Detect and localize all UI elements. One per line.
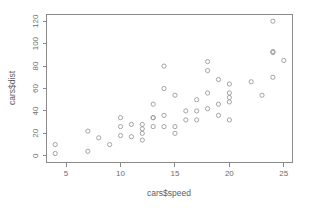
data-point	[227, 91, 231, 95]
data-point	[195, 118, 199, 122]
data-point	[173, 131, 177, 135]
x-tick-label: 10	[116, 169, 125, 178]
data-point	[162, 125, 166, 129]
x-axis-ticks: 510152025	[64, 163, 289, 178]
data-point	[260, 93, 264, 97]
y-tick-label: 40	[31, 106, 40, 115]
x-tick-label: 5	[64, 169, 69, 178]
y-tick-label: 0	[31, 153, 40, 158]
data-point	[216, 113, 220, 117]
data-point	[118, 116, 122, 120]
data-point	[282, 58, 286, 62]
data-point	[205, 91, 209, 95]
x-tick-label: 20	[225, 169, 234, 178]
data-point	[118, 133, 122, 137]
data-point	[173, 93, 177, 97]
data-point	[249, 80, 253, 84]
data-point	[97, 136, 101, 140]
data-point	[216, 102, 220, 106]
data-point	[140, 127, 144, 131]
data-point	[140, 138, 144, 142]
data-point	[86, 129, 90, 133]
y-tick-label: 20	[31, 128, 40, 137]
data-point	[227, 95, 231, 99]
data-point	[151, 102, 155, 106]
plot-canvas: 510152025 020406080100120 cars$speed car…	[0, 0, 316, 211]
data-point	[86, 149, 90, 153]
data-point	[108, 142, 112, 146]
data-point	[162, 86, 166, 90]
data-point	[151, 125, 155, 129]
data-point	[162, 64, 166, 68]
data-point	[271, 75, 275, 79]
y-axis-ticks: 020406080100120	[31, 14, 47, 158]
data-point	[173, 125, 177, 129]
data-point	[53, 142, 57, 146]
data-point	[227, 100, 231, 104]
x-axis-title: cars$speed	[147, 188, 191, 198]
y-tick-label: 100	[31, 36, 40, 50]
data-point	[129, 135, 133, 139]
data-point	[184, 109, 188, 113]
data-point	[195, 109, 199, 113]
plot-frame	[47, 15, 293, 163]
data-point	[195, 98, 199, 102]
data-point	[205, 59, 209, 63]
x-tick-label: 15	[170, 169, 179, 178]
data-point	[216, 77, 220, 81]
y-tick-label: 120	[31, 14, 40, 28]
data-point	[205, 68, 209, 72]
data-point	[162, 113, 166, 117]
x-tick-label: 25	[279, 169, 288, 178]
y-axis-title: cars$dist	[7, 70, 17, 105]
data-point	[151, 116, 155, 120]
data-points-group	[53, 19, 286, 156]
data-point	[227, 82, 231, 86]
data-point	[53, 151, 57, 155]
scatter-plot-figure: 510152025 020406080100120 cars$speed car…	[0, 0, 316, 211]
data-point	[129, 122, 133, 126]
data-point	[184, 118, 188, 122]
data-point	[205, 107, 209, 111]
y-tick-label: 80	[31, 61, 40, 70]
data-point	[271, 19, 275, 23]
data-point	[227, 118, 231, 122]
y-tick-label: 60	[31, 84, 40, 93]
data-point	[140, 131, 144, 135]
data-point	[140, 122, 144, 126]
data-point	[118, 125, 122, 129]
